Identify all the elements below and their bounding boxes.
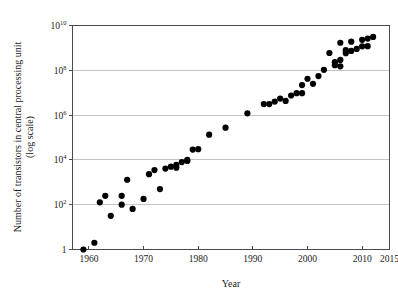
data-point <box>370 34 376 40</box>
data-point <box>80 246 86 252</box>
data-point <box>222 125 228 131</box>
data-point <box>359 43 365 49</box>
x-tick-label: 1980 <box>189 254 208 264</box>
data-point <box>283 98 289 104</box>
data-point <box>119 202 125 208</box>
data-point <box>206 132 212 138</box>
y-tick-label: 1 <box>62 245 67 255</box>
x-tick-label: 2000 <box>298 254 317 264</box>
y-tick-label: 102 <box>54 198 67 210</box>
data-point <box>337 63 343 69</box>
data-point <box>173 162 179 168</box>
y-tick-label: 104 <box>54 153 68 165</box>
data-point <box>315 73 321 79</box>
data-point <box>348 39 354 45</box>
data-point <box>304 76 310 82</box>
data-point <box>343 47 349 53</box>
data-point <box>162 165 168 171</box>
data-point <box>119 193 125 199</box>
data-point <box>321 67 327 73</box>
data-point <box>130 206 136 212</box>
data-point <box>97 199 103 205</box>
data-point <box>190 146 196 152</box>
y-tick-label: 106 <box>54 109 68 121</box>
data-point <box>332 62 338 68</box>
data-point <box>168 164 174 170</box>
data-points <box>80 34 376 253</box>
data-point <box>146 171 152 177</box>
data-point <box>195 146 201 152</box>
x-tick-label: 2015 <box>380 254 398 264</box>
data-point <box>102 193 108 199</box>
transistor-count-scatter-chart: 1102104106108101019601970198019902000201… <box>0 0 398 296</box>
data-point <box>354 46 360 52</box>
x-tick-label: 1990 <box>243 254 262 264</box>
data-point <box>151 167 157 173</box>
chart-page: 1102104106108101019601970198019902000201… <box>0 0 398 296</box>
data-point <box>91 240 97 246</box>
x-tick-label: 2010 <box>353 254 372 264</box>
data-point <box>261 101 267 107</box>
y-axis-title-line2: (log scale) <box>24 116 36 158</box>
x-tick-label: 1960 <box>79 254 98 264</box>
data-point <box>184 157 190 163</box>
data-point <box>277 95 283 101</box>
y-tick-label: 1010 <box>51 19 67 31</box>
data-point <box>310 81 316 87</box>
data-point <box>365 43 371 49</box>
data-point <box>348 48 354 54</box>
gridlines <box>73 70 390 204</box>
data-point <box>244 110 250 116</box>
data-point <box>272 99 278 105</box>
data-point <box>365 35 371 41</box>
data-point <box>326 50 332 56</box>
x-axis-title: Year <box>222 278 241 289</box>
data-point <box>337 57 343 63</box>
y-axis-title-line1: Number of transistors in central process… <box>12 42 23 233</box>
data-point <box>299 90 305 96</box>
data-point <box>293 90 299 96</box>
data-point <box>124 177 130 183</box>
data-point <box>179 159 185 165</box>
data-point <box>157 186 163 192</box>
data-point <box>299 82 305 88</box>
axis-titles: Year Number of transistors in central pr… <box>12 42 241 289</box>
y-tick-label: 108 <box>54 64 67 76</box>
data-point <box>108 213 114 219</box>
data-point <box>140 196 146 202</box>
data-point <box>266 101 272 107</box>
data-point <box>359 37 365 43</box>
x-tick-label: 1970 <box>134 254 153 264</box>
data-point <box>288 92 294 98</box>
data-point <box>337 40 343 46</box>
